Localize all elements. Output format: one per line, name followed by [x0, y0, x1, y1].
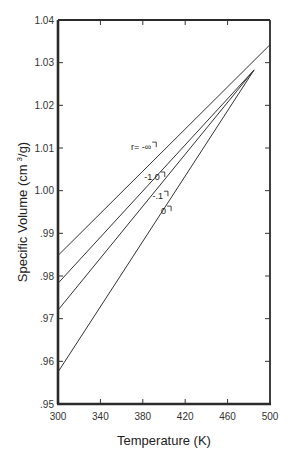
series-line — [58, 45, 270, 256]
x-tick-label: 420 — [177, 411, 194, 422]
y-tick-label: 1.02 — [35, 100, 55, 111]
curve-label: 0 — [161, 206, 166, 216]
curve-label: -.1 — [152, 191, 163, 201]
x-tick-label: 460 — [219, 411, 236, 422]
specific-volume-chart: .95.96.97.98.991.001.011.021.031.0430034… — [0, 0, 291, 466]
y-tick-label: .97 — [40, 313, 54, 324]
y-axis-title: Specific Volume (cm3/g) — [15, 142, 30, 282]
axis-ticks: .95.96.97.98.991.001.011.021.031.0430034… — [35, 15, 279, 423]
y-tick-label: 1.04 — [35, 15, 55, 26]
curve-label: r= -∞ — [131, 142, 151, 152]
x-axis-title: Temperature (K) — [117, 433, 211, 448]
y-tick-label: .96 — [40, 356, 54, 367]
y-tick-label: 1.00 — [35, 185, 55, 196]
y-tick-label: .95 — [40, 399, 54, 410]
x-tick-label: 380 — [134, 411, 151, 422]
series-line — [58, 70, 254, 372]
y-tick-label: 1.01 — [35, 143, 55, 154]
x-tick-label: 500 — [262, 411, 279, 422]
x-tick-label: 340 — [92, 411, 109, 422]
svg-text:Specific Volume (cm3/g): Specific Volume (cm3/g) — [15, 142, 30, 282]
y-tick-label: .98 — [40, 271, 54, 282]
x-tick-label: 300 — [50, 411, 67, 422]
y-tick-label: 1.03 — [35, 57, 55, 68]
series-line — [58, 70, 254, 310]
curve-label: -1.0 — [144, 172, 160, 182]
y-tick-label: .99 — [40, 228, 54, 239]
